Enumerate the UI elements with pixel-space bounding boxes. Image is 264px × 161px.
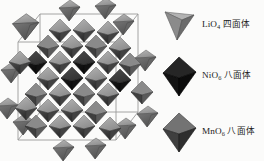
legend-formula-nio6-subscript: 6 [218,74,221,81]
legend-item-mno6: MnO6 八面体 [160,109,264,155]
tetrahedron-icon [160,6,200,44]
legend-formula-lio4-subscript: 4 [217,23,220,30]
legend-item-nio6: NiO6 八面体 [160,54,264,98]
crystal-structure-panel [0,0,160,161]
octahedron-icon-nio6 [160,54,200,98]
legend-formula-mno6-element: MnO [202,126,222,136]
crystal-structure-svg [0,0,160,161]
legend-shape-mno6: 八面体 [227,126,254,136]
legend-label-nio6: NiO6 八面体 [200,71,251,80]
legend-shape-nio6: 八面体 [224,70,251,80]
octahedron-icon-mno6 [160,109,200,155]
legend-formula-lio4-element: LiO [202,19,217,29]
legend-label-mno6: MnO6 八面体 [200,127,255,136]
legend-formula-mno6-subscript: 6 [222,130,225,137]
figure-root: LiO4 四面体 NiO6 八面体 [0,0,264,161]
legend-item-lio4: LiO4 四面体 [160,6,264,44]
legend-label-lio4: LiO4 四面体 [200,20,250,29]
legend: LiO4 四面体 NiO6 八面体 [160,0,264,161]
legend-shape-lio4: 四面体 [223,19,250,29]
legend-formula-nio6-element: NiO [202,70,218,80]
